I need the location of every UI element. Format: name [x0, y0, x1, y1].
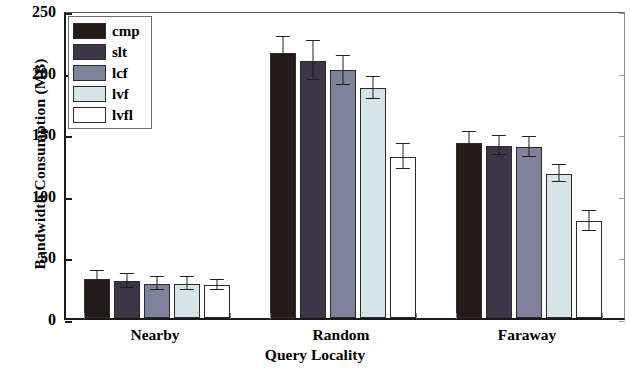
x-group-label-random: Random: [313, 326, 370, 344]
y-tick-label: 200: [10, 65, 56, 83]
error-cap-lower: [90, 285, 104, 286]
error-cap-upper: [462, 131, 476, 132]
error-cap-lower: [366, 98, 380, 99]
error-cap-upper: [522, 136, 536, 137]
legend-swatch-lcf: [73, 65, 106, 81]
bar-slt[interactable]: [300, 61, 326, 318]
bar-lvfl[interactable]: [390, 157, 416, 318]
y-tick-mark-right: [619, 136, 625, 137]
error-cap-upper: [366, 76, 380, 77]
bar-item[interactable]: [300, 10, 326, 318]
error-cap-lower: [276, 68, 290, 69]
bar-group: [270, 13, 418, 318]
bar-cmp[interactable]: [456, 143, 482, 318]
legend-label: lvfl: [112, 108, 133, 123]
error-cap-upper: [210, 279, 224, 280]
error-cap-lower: [180, 289, 194, 290]
bar-item[interactable]: [390, 10, 416, 318]
error-cap-upper: [90, 270, 104, 271]
y-tick-mark: [65, 136, 72, 138]
legend-item[interactable]: slt: [73, 42, 147, 62]
error-cap-upper: [552, 164, 566, 165]
bar-item[interactable]: [546, 10, 572, 318]
y-tick-label: 50: [10, 249, 56, 267]
bar-item[interactable]: [204, 10, 230, 318]
error-bar: [373, 77, 374, 99]
y-tick-mark-right: [619, 75, 625, 76]
error-cap-upper: [582, 210, 596, 211]
x-group-label-nearby: Nearby: [130, 326, 179, 344]
bar-slt[interactable]: [486, 146, 512, 318]
bar-item[interactable]: [270, 10, 296, 318]
x-tick-mark: [602, 313, 603, 319]
bar-lvf[interactable]: [360, 88, 386, 318]
error-cap-upper: [150, 276, 164, 277]
bar-item[interactable]: [486, 10, 512, 318]
bar-lcf[interactable]: [516, 147, 542, 318]
bar-lvf[interactable]: [546, 174, 572, 318]
y-tick-mark: [65, 321, 72, 323]
error-cap-lower: [552, 181, 566, 182]
bar-item[interactable]: [174, 10, 200, 318]
x-axis-title: Query Locality: [0, 346, 630, 364]
error-cap-lower: [210, 289, 224, 290]
error-cap-lower: [582, 230, 596, 231]
y-axis-tick-labels: 050100150200250: [8, 0, 56, 373]
y-tick-mark-right: [619, 259, 625, 260]
legend-item[interactable]: lvf: [73, 84, 147, 104]
error-bar: [469, 132, 470, 154]
y-tick-mark: [65, 198, 72, 200]
error-bar: [403, 144, 404, 169]
error-bar: [589, 211, 590, 231]
error-bar: [283, 37, 284, 69]
x-group-label-faraway: Faraway: [498, 326, 557, 344]
bar-item[interactable]: [330, 10, 356, 318]
bar-group: [456, 13, 604, 318]
y-tick-mark: [65, 13, 72, 15]
x-tick-mark: [270, 313, 271, 319]
error-cap-lower: [306, 79, 320, 80]
error-bar: [343, 56, 344, 86]
x-tick-mark: [456, 313, 457, 319]
error-bar: [559, 165, 560, 182]
error-bar: [499, 136, 500, 156]
error-cap-upper: [120, 273, 134, 274]
error-cap-lower: [150, 289, 164, 290]
y-tick-label: 100: [10, 188, 56, 206]
bar-lvfl[interactable]: [204, 285, 230, 318]
legend-item[interactable]: cmp: [73, 21, 147, 41]
bar-lvfl[interactable]: [576, 221, 602, 318]
bar-item[interactable]: [576, 10, 602, 318]
error-cap-lower: [522, 156, 536, 157]
error-cap-lower: [120, 287, 134, 288]
y-tick-mark: [65, 259, 72, 261]
legend-item[interactable]: lvfl: [73, 105, 147, 125]
legend-label: cmp: [112, 24, 140, 39]
y-tick-label: 250: [10, 3, 56, 21]
error-cap-lower: [462, 153, 476, 154]
bar-item[interactable]: [516, 10, 542, 318]
error-cap-upper: [336, 55, 350, 56]
error-cap-lower: [492, 154, 506, 155]
y-tick-mark-right: [619, 321, 625, 322]
bar-item[interactable]: [456, 10, 482, 318]
x-tick-mark: [416, 313, 417, 319]
bar-cmp[interactable]: [270, 53, 296, 318]
error-bar: [529, 137, 530, 157]
bar-lcf[interactable]: [330, 70, 356, 318]
error-cap-lower: [396, 168, 410, 169]
error-cap-upper: [396, 143, 410, 144]
error-bar: [97, 271, 98, 286]
bar-item[interactable]: [360, 10, 386, 318]
error-cap-upper: [180, 276, 194, 277]
x-tick-mark: [84, 313, 85, 319]
chart-legend: cmpsltlcflvflvfl: [68, 16, 152, 129]
legend-label: lcf: [112, 66, 128, 81]
legend-item[interactable]: lcf: [73, 63, 147, 83]
x-tick-mark: [230, 313, 231, 319]
error-cap-lower: [336, 84, 350, 85]
error-bar: [127, 274, 128, 289]
y-tick-mark-right: [619, 198, 625, 199]
legend-swatch-lvf: [73, 86, 106, 102]
error-cap-upper: [492, 135, 506, 136]
